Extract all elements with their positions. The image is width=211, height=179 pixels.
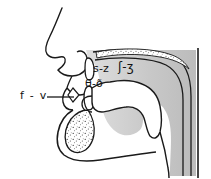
label-labiodental-fv: f - v [20, 90, 47, 101]
label-postalveolar-sh-zh: ʃ-ʒ [118, 61, 134, 73]
label-alveolar-sz: s-z [93, 63, 109, 74]
vocal-tract-diagram: f - v s-z ʃ-ʒ θ-ð [0, 0, 211, 179]
label-dental-th-dh: θ-ð [85, 78, 103, 89]
